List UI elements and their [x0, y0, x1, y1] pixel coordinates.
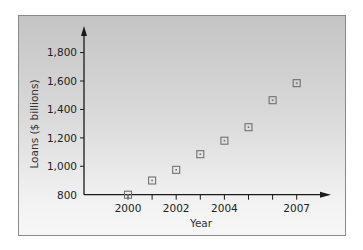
x-tick-label: 2007 [283, 202, 310, 214]
data-point-marker-icon [293, 80, 300, 87]
data-points [125, 80, 301, 199]
y-axis-arrow-icon [81, 26, 87, 36]
x-tick-label: 2004 [211, 202, 238, 214]
data-point-marker-icon [245, 124, 252, 131]
y-axis-title: Loans ($ billions) [28, 79, 40, 168]
data-point-marker-icon [269, 97, 276, 104]
x-axis-title: Year [189, 217, 213, 229]
y-tick-label: 1,400 [47, 103, 77, 115]
x-axis-arrow-icon [320, 192, 331, 198]
y-tick-label: 1,200 [47, 132, 77, 144]
data-point-marker-icon [149, 177, 156, 184]
x-tick-label: 2000 [115, 202, 142, 214]
y-tick-label: 1,600 [47, 75, 77, 87]
data-point-marker-icon [197, 151, 204, 158]
x-axis-ticks: 2000200220042007 [115, 195, 310, 214]
axes [81, 26, 331, 198]
scatter-chart: 8001,0001,2001,4001,6001,800 20002002200… [0, 0, 363, 250]
data-point-marker-icon [221, 137, 228, 144]
y-tick-label: 1,000 [47, 160, 77, 172]
x-tick-label: 2002 [163, 202, 190, 214]
y-tick-label: 800 [57, 189, 77, 201]
y-axis-ticks: 8001,0001,2001,4001,6001,800 [47, 46, 84, 200]
y-tick-label: 1,800 [47, 46, 77, 58]
data-point-marker-icon [173, 166, 180, 173]
